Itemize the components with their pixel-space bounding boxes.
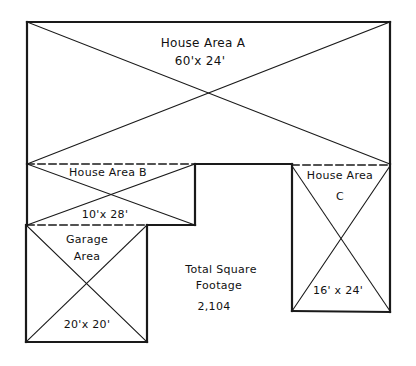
house-area-c-label-line2: C	[336, 191, 344, 202]
total-label-line2: Footage	[196, 280, 242, 291]
garage-area-label-line2: Area	[74, 251, 101, 262]
house-area-c-dimensions: 16' x 24'	[313, 285, 363, 296]
house-area-c-label-line1: House Area	[307, 170, 373, 181]
house-area-b-label: House Area B	[69, 167, 147, 178]
house-area-a-label: House Area A	[161, 37, 246, 49]
total-label-line1: Total Square	[185, 264, 257, 275]
garage-area-label-line1: Garage	[66, 234, 108, 245]
house-area-a-dimensions: 60'x 24'	[175, 55, 225, 67]
total-value: 2,104	[198, 301, 231, 312]
garage-area-dimensions: 20'x 20'	[64, 319, 110, 330]
house-area-b-dimensions: 10'x 28'	[82, 209, 128, 220]
